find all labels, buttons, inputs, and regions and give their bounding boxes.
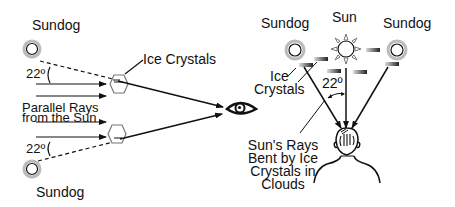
sundog-bottom-label: Sundog [36, 185, 84, 199]
dashed-ray-top [40, 61, 113, 79]
sundog-icon [24, 41, 40, 57]
angle-top-label: 22º [26, 68, 45, 80]
angle-arc-top [48, 67, 50, 83]
sun-label: Sun [332, 10, 357, 24]
ice-crystals-label: Ice Crystals [143, 52, 216, 66]
parallel-rays-line2: from the Sun [22, 112, 96, 124]
angle-bottom-label: 22º [26, 143, 45, 155]
sundog-icon [286, 41, 304, 59]
sun-icon [331, 34, 361, 64]
sundog-left-label: Sundog [261, 16, 309, 30]
dashed-ray-bottom [38, 142, 113, 161]
sundog-icon [388, 41, 406, 59]
eye-icon [227, 103, 256, 114]
angle-arc-bottom [48, 142, 50, 156]
sundog-right-label: Sundog [383, 16, 431, 30]
ice-crystals-line2: Crystals [254, 82, 305, 96]
caption-line4: Clouds [238, 177, 328, 191]
angle-label: 22º [322, 76, 343, 90]
sundog-icon [24, 161, 40, 177]
ice-crystal-hexagon-icon [108, 125, 126, 143]
ice-crystal-hexagon-icon [110, 75, 128, 93]
sundog-diagram: Sundog Sundog Ice Crystals 22º 22º Paral… [0, 0, 455, 207]
sundog-top-label: Sundog [32, 18, 80, 32]
